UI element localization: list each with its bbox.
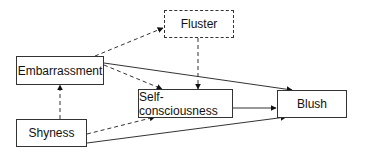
edge-shyness-blush <box>87 117 286 143</box>
node-shyness: Shyness <box>16 119 87 147</box>
node-self-consciousness-label: Self-consciousness <box>139 90 232 118</box>
node-fluster-label: Fluster <box>181 17 218 31</box>
edge-embarrassment-self-consciousness <box>104 65 162 89</box>
node-embarrassment-label: Embarrassment <box>18 64 103 78</box>
node-fluster: Fluster <box>164 10 234 38</box>
node-shyness-label: Shyness <box>28 126 74 140</box>
edge-shyness-self-consciousness <box>87 117 155 134</box>
node-blush-label: Blush <box>297 97 327 111</box>
node-blush: Blush <box>277 90 347 118</box>
node-embarrassment: Embarrassment <box>16 56 104 85</box>
edge-embarrassment-fluster <box>95 28 163 56</box>
node-self-consciousness: Self-consciousness <box>138 89 233 118</box>
